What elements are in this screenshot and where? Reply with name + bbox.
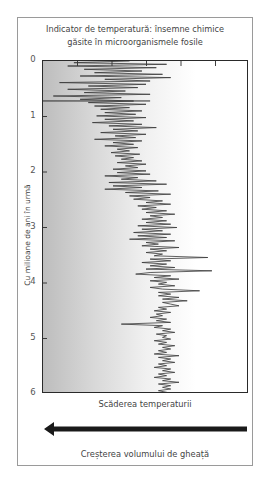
x-axis-label: Scăderea temperaturii — [42, 399, 248, 409]
chart-title-line-1: Indicator de temperatură: însemne chimic… — [17, 23, 253, 36]
y-tick-label: 0 — [29, 54, 37, 64]
chart-title: Indicator de temperatură: însemne chimic… — [17, 23, 253, 48]
plot-area — [42, 60, 248, 393]
temperature-series-line — [53, 61, 212, 393]
left-arrow-icon — [44, 414, 247, 444]
y-tick-label: 5 — [29, 332, 37, 342]
chart-title-line-2: găsite în microorganismele fosile — [17, 36, 253, 49]
y-tick-label: 6 — [29, 387, 37, 397]
x-axis-secondary-label: Creșterea volumului de gheață — [42, 449, 248, 459]
temperature-series-plot — [43, 61, 248, 393]
y-tick-label: 1 — [29, 110, 37, 120]
y-tick-label: 2 — [29, 165, 37, 175]
y-axis-label: Cu milioane de ani în urmă — [23, 184, 32, 285]
